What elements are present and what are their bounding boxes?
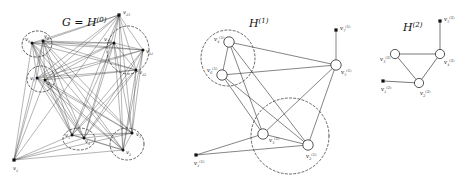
graph-coarsening-figure: G = H(0) v1v13v10v11v12v9v8v7v6v5v4v3v2 …	[0, 0, 474, 183]
label-panel-0-v2: v2	[126, 149, 131, 157]
node-panel-0-v1	[12, 158, 15, 161]
node-panel-0-v11	[142, 49, 145, 52]
edge-panel-0-v1-v8	[14, 41, 43, 160]
label-panel-0-v6: v6	[47, 80, 53, 88]
node-panel-0-v10	[113, 42, 116, 45]
panel-1-group: H(1) v1(1)v2(1)v3(1)v4(1)v5(1)v6(1)v7(1)	[194, 17, 352, 174]
edge-panel-1-v4-v2	[229, 42, 308, 145]
label-panel-0-v10: v10	[104, 36, 112, 44]
node-panel-0-v3	[131, 132, 134, 135]
node-panel-2-v1	[381, 79, 384, 82]
edge-panel-0-v1-v3	[14, 133, 132, 160]
label-panel-2-v4: v4(2)	[444, 59, 455, 67]
panel-1-clusters	[201, 30, 329, 174]
node-panel-1-v5	[331, 60, 341, 70]
edge-panel-2-v2-v4	[419, 54, 440, 83]
panel-0-group: G = H(0) v1v13v10v11v12v9v8v7v6v5v4v3v2	[12, 9, 153, 173]
label-panel-1-v4: v4(1)	[214, 36, 225, 44]
panel-2-title: H(2)	[402, 21, 423, 34]
label-panel-1-v2: v2(1)	[306, 153, 317, 161]
panel-2-nodes	[381, 19, 444, 87]
panel-0-labels: v1v13v10v11v12v9v8v7v6v5v4v3v2	[13, 9, 153, 173]
edge-panel-1-v6-v3	[222, 75, 263, 134]
label-panel-0-v3: v3	[136, 131, 141, 139]
edge-panel-0-v1-v9	[14, 43, 32, 160]
node-panel-0-v8	[42, 40, 45, 43]
edge-panel-1-v4-v5	[229, 42, 336, 65]
node-panel-1-v2	[303, 140, 313, 150]
label-panel-1-v6: v6(1)	[207, 67, 218, 75]
node-panel-0-v13	[117, 13, 120, 16]
label-panel-2-v2: v2(2)	[420, 90, 431, 98]
panel-0-edges	[14, 15, 143, 160]
edge-panel-0-v8-v5	[43, 41, 72, 135]
figure-canvas: G = H(0) v1v13v10v11v12v9v8v7v6v5v4v3v2 …	[0, 0, 474, 183]
label-panel-2-v5: v5(2)	[444, 16, 455, 24]
label-panel-0-v9: v9	[25, 36, 31, 44]
node-panel-1-v6	[217, 70, 227, 80]
edge-panel-0-v13-v10	[114, 15, 119, 43]
node-panel-1-v3	[258, 129, 268, 139]
edge-panel-0-v9-v6	[32, 43, 45, 80]
node-panel-0-v7	[36, 77, 39, 80]
label-panel-1-v3: v3(1)	[269, 137, 280, 145]
node-panel-0-v5	[71, 134, 74, 137]
node-panel-1-v7	[334, 28, 337, 31]
label-panel-0-v12: v12	[139, 69, 146, 77]
edge-panel-0-v10-v12	[114, 43, 136, 70]
edge-panel-1-v5-v2	[308, 65, 336, 145]
edge-panel-1-v4-v3	[229, 42, 263, 134]
label-panel-0-v1: v1	[13, 165, 18, 173]
label-panel-2-v1: v1(2)	[381, 86, 392, 94]
label-panel-2-v3: v3(2)	[380, 56, 391, 64]
edge-panel-0-v12-v4	[84, 70, 136, 138]
edge-panel-0-v9-v4	[32, 43, 84, 138]
edge-panel-0-v10-v3	[114, 43, 132, 133]
node-panel-0-v2	[122, 149, 125, 152]
label-panel-0-v8: v8	[44, 33, 50, 41]
panel-2-group: H(2) v1(2)v2(2)v3(2)v4(2)v5(2)	[380, 16, 455, 98]
label-panel-1-v1: v1(1)	[194, 160, 205, 168]
label-panel-1-v7: v7(1)	[340, 25, 351, 33]
label-panel-0-v7: v7	[30, 75, 36, 83]
label-panel-0-v4: v4	[85, 138, 90, 146]
edge-panel-2-v3-v2	[395, 54, 419, 83]
panel-1-labels: v1(1)v2(1)v3(1)v4(1)v5(1)v6(1)v7(1)	[194, 25, 352, 168]
node-panel-2-v4	[435, 49, 444, 58]
node-panel-1-v4	[224, 37, 234, 47]
node-panel-0-v9	[31, 42, 34, 45]
label-panel-0-v5: v5	[65, 132, 70, 140]
node-panel-0-v12	[135, 69, 138, 72]
panel-0-title: G = H(0)	[62, 16, 107, 29]
edge-panel-0-v9-v3	[32, 43, 132, 133]
label-panel-1-v5: v5(1)	[341, 69, 352, 77]
edge-panel-2-v1-v2	[383, 81, 419, 83]
edge-panel-0-v13-v11	[119, 15, 143, 50]
node-panel-2-v5	[438, 19, 441, 22]
label-panel-0-v13: v13	[123, 9, 130, 17]
node-panel-2-v2	[414, 78, 423, 87]
edge-panel-0-v1-v7	[14, 78, 37, 160]
edge-panel-0-v13-v12	[119, 15, 136, 70]
label-panel-0-v11: v11	[146, 48, 153, 56]
node-panel-2-v3	[390, 49, 399, 58]
panel-1-title: H(1)	[248, 17, 269, 30]
node-panel-1-v1	[194, 153, 197, 156]
